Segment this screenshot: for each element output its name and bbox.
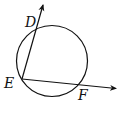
label-D: D: [24, 14, 36, 30]
label-F: F: [77, 87, 89, 103]
ray-EF: [22, 79, 116, 89]
geometry-diagram: D E F: [0, 0, 123, 115]
diagram-canvas: D E F: [0, 0, 123, 115]
label-E: E: [3, 75, 14, 91]
